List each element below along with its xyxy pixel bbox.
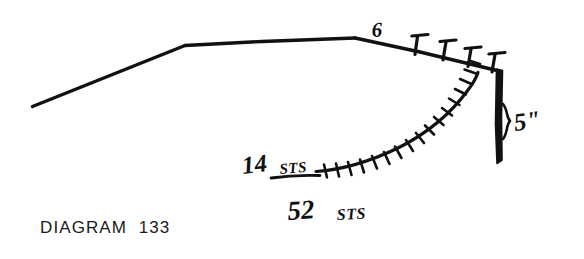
diagram-caption: DIAGRAM 133 bbox=[40, 218, 170, 238]
height-measure-label: 5" bbox=[512, 106, 542, 136]
bottom-stitches-unit: STS bbox=[336, 204, 366, 222]
left-stitches-unit: STS bbox=[279, 159, 308, 177]
top-count-label: 6 bbox=[371, 17, 383, 42]
depth-bar-outline bbox=[496, 69, 503, 164]
left-stitches-number: 14 bbox=[240, 149, 268, 179]
depth-bar bbox=[496, 69, 503, 164]
bottom-stitches-number: 52 bbox=[286, 194, 315, 226]
diagram-canvas: 6 5" 14 STS 52 STS DIAGRAM 133 bbox=[0, 0, 584, 259]
